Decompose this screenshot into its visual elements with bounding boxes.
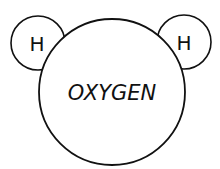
hydrogen-label-left: H — [29, 32, 44, 56]
water-molecule-diagram: H H OXYGEN — [0, 0, 220, 169]
hydrogen-label-right: H — [176, 31, 191, 55]
oxygen-label: OXYGEN — [68, 81, 157, 105]
